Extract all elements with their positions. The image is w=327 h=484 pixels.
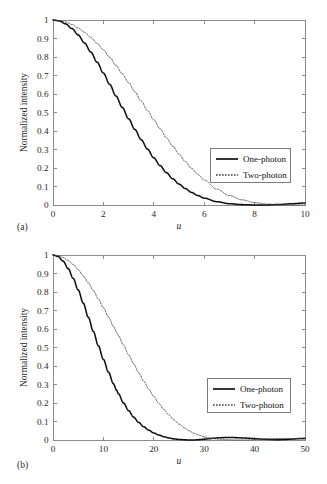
x-tick-label: 6 bbox=[202, 209, 207, 219]
panel-b: 0102030405000.10.20.30.40.50.60.70.80.91… bbox=[0, 240, 327, 484]
x-tick-label: 30 bbox=[200, 444, 210, 454]
x-tick-label: 10 bbox=[99, 444, 109, 454]
y-tick-label: 0.5 bbox=[37, 343, 49, 353]
legend-label: One-photon bbox=[243, 154, 286, 164]
y-tick-label: 0.2 bbox=[37, 398, 49, 408]
y-axis-title: Normalized intensity bbox=[19, 73, 29, 152]
legend-label: One-photon bbox=[240, 384, 283, 394]
panel-a: 024681000.10.20.30.40.50.60.70.80.91uNor… bbox=[0, 0, 327, 240]
y-tick-label: 0.1 bbox=[37, 417, 49, 427]
y-tick-label: 0.1 bbox=[37, 182, 49, 192]
x-tick-label: 50 bbox=[300, 444, 310, 454]
y-tick-label: 0 bbox=[44, 200, 49, 210]
x-tick-label: 40 bbox=[250, 444, 260, 454]
y-tick-label: 0.4 bbox=[37, 126, 49, 136]
x-axis-title: u bbox=[177, 455, 182, 466]
y-tick-label: 0.8 bbox=[37, 52, 49, 62]
y-tick-label: 0.7 bbox=[37, 71, 49, 81]
x-tick-label: 8 bbox=[252, 209, 257, 219]
y-tick-label: 0.7 bbox=[37, 306, 49, 316]
y-tick-label: 0.9 bbox=[37, 269, 49, 279]
legend-label: Two-photon bbox=[243, 170, 287, 180]
y-tick-label: 0 bbox=[44, 435, 49, 445]
figure-axial-psf-comparison: 024681000.10.20.30.40.50.60.70.80.91uNor… bbox=[0, 0, 327, 484]
y-tick-label: 0.4 bbox=[37, 361, 49, 371]
y-tick-label: 1 bbox=[44, 15, 49, 25]
y-tick-label: 0.8 bbox=[37, 287, 49, 297]
y-tick-label: 0.6 bbox=[37, 324, 49, 334]
x-tick-label: 0 bbox=[51, 444, 56, 454]
y-tick-label: 0.3 bbox=[37, 145, 49, 155]
x-tick-label: 10 bbox=[300, 209, 310, 219]
y-tick-label: 0.6 bbox=[37, 89, 49, 99]
y-tick-label: 0.9 bbox=[37, 34, 49, 44]
plot-area-b: 0102030405000.10.20.30.40.50.60.70.80.91… bbox=[0, 240, 327, 484]
legend: One-photonTwo-photon bbox=[210, 148, 290, 182]
y-tick-label: 0.2 bbox=[37, 163, 49, 173]
y-tick-label: 0.3 bbox=[37, 380, 49, 390]
y-axis-title: Normalized intensity bbox=[19, 308, 29, 387]
y-tick-label: 1 bbox=[44, 250, 49, 260]
plot-area-a: 024681000.10.20.30.40.50.60.70.80.91uNor… bbox=[0, 0, 327, 240]
panel-label-a: (a) bbox=[17, 222, 28, 232]
x-axis-title: u bbox=[177, 220, 182, 231]
legend: One-photonTwo-photon bbox=[207, 378, 290, 412]
x-tick-label: 2 bbox=[101, 209, 106, 219]
x-tick-label: 20 bbox=[149, 444, 159, 454]
y-tick-label: 0.5 bbox=[37, 108, 49, 118]
legend-label: Two-photon bbox=[240, 400, 284, 410]
x-tick-label: 0 bbox=[51, 209, 56, 219]
x-tick-label: 4 bbox=[152, 209, 157, 219]
panel-label-b: (b) bbox=[17, 460, 28, 470]
